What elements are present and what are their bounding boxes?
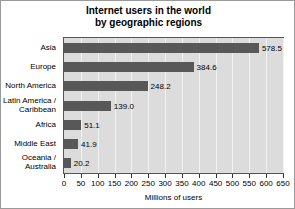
- bar[interactable]: [64, 158, 71, 168]
- bar-value-label: 578.5: [259, 44, 282, 53]
- x-tick-mark: [266, 174, 267, 178]
- bar-band: 51.1: [64, 120, 283, 130]
- x-tick-mark: [148, 174, 149, 178]
- x-tick-label: 550: [243, 179, 256, 188]
- x-tick-mark: [249, 174, 250, 178]
- category-label: Latin America / Caribbean: [3, 96, 56, 114]
- bar-chart-figure: Internet users in the world by geographi…: [0, 0, 295, 209]
- x-tick-label: 0: [62, 179, 66, 188]
- x-tick-mark: [165, 174, 166, 178]
- x-tick-mark: [283, 174, 284, 178]
- bar-value-label: 139.0: [111, 102, 134, 111]
- x-tick-mark: [81, 174, 82, 178]
- bar[interactable]: [64, 43, 259, 53]
- x-tick-label: 250: [142, 179, 155, 188]
- bar-band: 139.0: [64, 101, 283, 111]
- bar-band: 248.2: [64, 81, 283, 91]
- x-tick-label: 150: [108, 179, 121, 188]
- plot-area: 578.5384.6248.2139.051.141.920.2: [63, 37, 284, 174]
- bar[interactable]: [64, 101, 111, 111]
- bar-value-label: 248.2: [148, 82, 171, 91]
- category-label: North America: [5, 81, 56, 90]
- x-tick-mark: [115, 174, 116, 178]
- x-tick-mark: [98, 174, 99, 178]
- chart-title-line-2: by geographic regions: [1, 17, 295, 29]
- category-label: Oceania / Australia: [22, 153, 56, 171]
- bar[interactable]: [64, 120, 81, 130]
- x-tick-mark: [199, 174, 200, 178]
- x-tick-label: 500: [226, 179, 239, 188]
- bar-value-label: 41.9: [78, 140, 97, 149]
- bar-band: 41.9: [64, 139, 283, 149]
- category-label: Europe: [30, 62, 56, 71]
- x-tick-label: 50: [76, 179, 85, 188]
- bar-band: 384.6: [64, 62, 283, 72]
- bar-band: 578.5: [64, 43, 283, 53]
- bar[interactable]: [64, 62, 194, 72]
- x-tick-mark: [131, 174, 132, 178]
- category-label: Middle East: [14, 139, 56, 148]
- x-tick-mark: [64, 174, 65, 178]
- category-label: Africa: [36, 120, 56, 129]
- bar-value-label: 20.2: [71, 159, 90, 168]
- x-axis-title: Millions of users: [63, 193, 284, 203]
- x-tick-mark: [232, 174, 233, 178]
- x-tick-label: 600: [259, 179, 272, 188]
- x-tick-label: 200: [125, 179, 138, 188]
- gridline: [283, 38, 284, 173]
- bar-value-label: 51.1: [81, 121, 100, 130]
- chart-title: Internet users in the world by geographi…: [1, 5, 295, 29]
- x-tick-mark: [182, 174, 183, 178]
- x-tick-label: 350: [175, 179, 188, 188]
- x-tick-label: 450: [209, 179, 222, 188]
- x-tick-label: 300: [158, 179, 171, 188]
- bar[interactable]: [64, 81, 148, 91]
- x-tick-label: 100: [91, 179, 104, 188]
- category-label: Asia: [40, 43, 56, 52]
- chart-title-line-1: Internet users in the world: [1, 5, 295, 17]
- x-tick-label: 400: [192, 179, 205, 188]
- x-tick-label: 650: [276, 179, 289, 188]
- bar[interactable]: [64, 139, 78, 149]
- bar-value-label: 384.6: [194, 63, 217, 72]
- bar-band: 20.2: [64, 158, 283, 168]
- x-tick-mark: [216, 174, 217, 178]
